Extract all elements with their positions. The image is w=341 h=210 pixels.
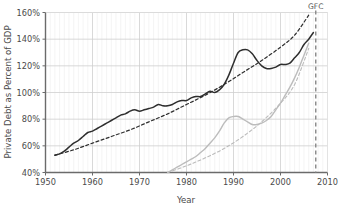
x-tick-label: 1960 [82, 177, 103, 187]
y-tick-label: 120% [17, 61, 41, 71]
x-tick-label: 2010 [317, 177, 338, 187]
y-axis-title: Private Debt as Percent of GDP [3, 25, 13, 158]
x-axis-ticks: 1950196019701980199020002010 [35, 173, 338, 188]
y-tick-label: 40% [22, 168, 40, 178]
gfc-marker-label: GFC [308, 2, 324, 11]
y-tick-label: 80% [22, 114, 40, 124]
x-tick-label: 1980 [176, 177, 197, 187]
y-axis-ticks: 40%60%80%100%120%140%160% [17, 8, 46, 178]
annotations-group: GFC [308, 2, 324, 173]
x-tick-label: 2000 [270, 177, 291, 187]
y-tick-label: 60% [22, 141, 40, 151]
x-tick-label: 1950 [35, 177, 56, 187]
x-tick-label: 1970 [129, 177, 150, 187]
x-axis-title: Year [176, 195, 196, 205]
x-tick-label: 1990 [223, 177, 244, 187]
y-tick-label: 100% [17, 88, 41, 98]
chart-container: GFC 1950196019701980199020002010 40%60%8… [0, 0, 341, 210]
private-debt-line-chart: GFC 1950196019701980199020002010 40%60%8… [0, 0, 341, 210]
y-tick-label: 140% [17, 34, 41, 44]
y-tick-label: 160% [17, 8, 41, 18]
